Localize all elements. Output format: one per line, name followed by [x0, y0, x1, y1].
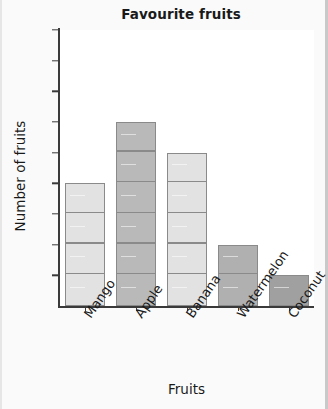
y-axis-tick-mark: [52, 91, 58, 92]
bar: [167, 153, 207, 306]
bar-unit-divider: [117, 242, 155, 243]
y-axis-tick-mark: [52, 244, 58, 245]
y-axis-tick-mark: [52, 183, 58, 184]
bar-texture-line: [121, 195, 136, 196]
bar-texture-line: [121, 164, 136, 165]
bar-texture-line: [70, 287, 85, 288]
bar-unit-divider: [117, 181, 155, 182]
y-axis-line: [58, 28, 60, 308]
y-axis-tick-mark: [52, 60, 58, 61]
bar-texture-line: [172, 164, 187, 165]
bar-unit-divider: [219, 273, 257, 274]
bar-texture-line: [70, 256, 85, 257]
bar-unit-divider: [168, 273, 206, 274]
bar-unit-divider: [168, 181, 206, 182]
bar-unit-divider: [117, 212, 155, 213]
bar-texture-line: [121, 256, 136, 257]
bar-texture-line: [223, 287, 238, 288]
bar: [116, 122, 156, 306]
bar-texture-line: [121, 134, 136, 135]
bar-texture-line: [121, 226, 136, 227]
y-axis-tick-mark: [52, 152, 58, 153]
bar-unit-divider: [168, 242, 206, 243]
bar-texture-line: [172, 287, 187, 288]
bar-texture-line: [70, 195, 85, 196]
bar-unit-divider: [66, 212, 104, 213]
y-axis-tick-mark: [52, 29, 58, 30]
bar-texture-line: [223, 256, 238, 257]
bar-texture-line: [172, 226, 187, 227]
bar-texture-line: [121, 287, 136, 288]
y-axis-title: Number of fruits: [12, 96, 28, 256]
bar-unit-divider: [66, 242, 104, 243]
y-axis-tick-mark: [52, 121, 58, 122]
chart-title: Favourite fruits: [50, 6, 312, 22]
bar-texture-line: [70, 226, 85, 227]
bar-texture-line: [172, 195, 187, 196]
bar-unit-divider: [168, 212, 206, 213]
x-axis-title: Fruits: [59, 381, 314, 397]
y-axis-tick-mark: [52, 275, 58, 276]
y-axis-tick-mark: [52, 213, 58, 214]
bar-unit-divider: [117, 150, 155, 151]
bar-texture-line: [274, 287, 289, 288]
bar-unit-divider: [66, 273, 104, 274]
chart-figure: Favourite fruits 0123456789 Number of fr…: [0, 0, 328, 409]
bar-unit-divider: [117, 273, 155, 274]
bar-texture-line: [172, 256, 187, 257]
